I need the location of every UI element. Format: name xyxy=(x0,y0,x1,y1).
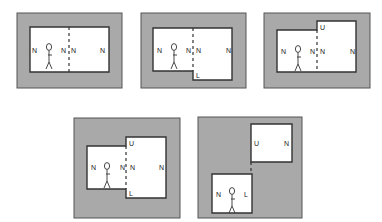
room-label: U xyxy=(129,140,134,147)
room-label: L xyxy=(129,190,133,197)
room-label: N xyxy=(226,47,231,54)
room-label: N xyxy=(159,164,164,171)
panel-1: NNNN xyxy=(17,13,122,88)
room-label: N xyxy=(120,164,125,171)
room-label: N xyxy=(32,47,37,54)
room-label: L xyxy=(244,191,248,198)
room-label: N xyxy=(284,140,289,147)
room-label: N xyxy=(186,47,191,54)
room-label: N xyxy=(281,48,286,55)
panel-3: NNNNU xyxy=(264,13,370,88)
room-label: N xyxy=(91,164,96,171)
room-label: N xyxy=(130,164,135,171)
room-label: N xyxy=(216,191,221,198)
room-label: N xyxy=(61,47,66,54)
room-label: N xyxy=(157,47,162,54)
room-label: U xyxy=(320,24,325,31)
panel-4: NNNNUL xyxy=(74,118,180,218)
room-label: L xyxy=(196,72,200,79)
room-label: N xyxy=(100,47,105,54)
panel-2: NNNNL xyxy=(141,13,246,88)
floorplan-diagram: NNNNNNNNLNNNNUNNNNULUNNL xyxy=(0,0,382,222)
panel-5: UNNL xyxy=(198,117,302,218)
room-label: N xyxy=(196,47,201,54)
room-label: N xyxy=(320,48,325,55)
room-label: N xyxy=(310,48,315,55)
room-label: U xyxy=(254,140,259,147)
room-label: N xyxy=(350,48,355,55)
room-label: N xyxy=(71,47,76,54)
